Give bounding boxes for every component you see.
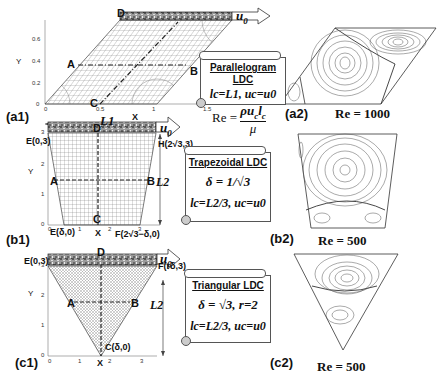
- x-tick: 0: [44, 106, 47, 112]
- reynolds-formula: Re = ρuclc μ: [212, 104, 266, 135]
- y-tick: 3: [41, 129, 44, 135]
- re-label-a2: Re = 1000: [335, 107, 390, 120]
- lid-velocity-label-a: u0: [236, 9, 248, 26]
- re-label-b2: Re = 500: [318, 234, 367, 247]
- trapezoidal-condition: lc=L2/3, uc=u0: [186, 196, 270, 211]
- point-a-label: A: [50, 176, 58, 187]
- x-tick: 0.5: [96, 106, 104, 112]
- x-tick: 1: [152, 106, 155, 112]
- panel-label-c1: (c1): [15, 356, 38, 369]
- x-tick: 3: [138, 226, 141, 232]
- x-tick: 1: [78, 358, 81, 364]
- trapezoidal-streamlines: [298, 134, 397, 228]
- parallelogram-condition: lc=L1, uc=u0: [201, 87, 285, 102]
- triangular-delta-eq: δ = √3, r=2: [186, 297, 270, 313]
- re-label-c2: Re = 500: [317, 360, 366, 373]
- y-tick: 1: [41, 322, 44, 328]
- panel-label-b1: (b1): [6, 233, 30, 246]
- y-tick: 0: [41, 352, 44, 358]
- panel-label-b2: (b2): [270, 232, 294, 245]
- triangular-condition: lc=L2/3, uc=u0: [186, 319, 270, 334]
- point-a-label: A: [67, 59, 75, 70]
- point-c-label: C(δ,0): [105, 343, 130, 352]
- triangular-streamlines: [294, 254, 398, 350]
- y-tick: 0.4: [32, 58, 40, 64]
- x-tick: 0: [48, 226, 51, 232]
- x-tick: 2: [108, 226, 111, 232]
- point-a-label: A: [67, 298, 75, 309]
- x-tick: 3: [140, 358, 143, 364]
- parallelogram-title-1: Parallelogram: [201, 62, 285, 73]
- point-e-bottom-label: E(δ,0): [50, 228, 75, 237]
- point-e-label: E(0,3): [24, 257, 49, 266]
- x-tick: 1.5: [203, 106, 211, 112]
- parallelogram-info-box: Parallelogram LDC lc=L1, uc=u0: [200, 57, 286, 105]
- triangular-title: Triangular LDC: [186, 280, 270, 291]
- x-axis-label-a: X: [132, 113, 138, 122]
- scroll-roll-bottom: [181, 336, 191, 346]
- y-axis-label-b: Y: [28, 168, 33, 176]
- y-tick: 0.2: [32, 80, 40, 86]
- point-d-label: D: [93, 123, 101, 134]
- trapezoidal-mesh: [40, 117, 180, 230]
- panel-label-c2: (c2): [270, 356, 293, 369]
- y-tick: 3: [41, 262, 44, 268]
- y-tick: 0: [36, 101, 39, 107]
- dimension-l2-label: L2: [150, 299, 163, 311]
- point-e-top-label: E(0,3): [26, 137, 51, 146]
- y-tick: 0.6: [32, 36, 40, 42]
- scroll-roll-top: [184, 269, 266, 278]
- point-b-label: B: [147, 176, 155, 187]
- scroll-roll-top: [199, 51, 281, 60]
- trapezoidal-title: Trapezoidal LDC: [186, 157, 270, 168]
- scroll-roll-bottom: [196, 98, 206, 108]
- lid-velocity-label-b: u0: [160, 121, 172, 138]
- panel-label-a1: (a1): [6, 110, 29, 123]
- point-f-label: F(rδ,3): [158, 262, 186, 271]
- x-tick: 1: [78, 226, 81, 232]
- y-axis-label-c: Y: [28, 290, 33, 298]
- point-b-label: B: [190, 66, 198, 77]
- y-axis-label-a: Y: [16, 58, 21, 66]
- trapezoidal-info-box: Trapezoidal LDC δ = 1/√3 lc=L2/3, uc=u0: [185, 152, 271, 222]
- y-tick: 0: [41, 221, 44, 227]
- scroll-roll-top: [184, 146, 266, 155]
- x-tick: 0: [48, 358, 51, 364]
- trapezoidal-delta-eq: δ = 1/√3: [186, 174, 270, 190]
- point-c-label: C: [93, 214, 101, 225]
- x-tick: 2: [108, 358, 111, 364]
- x-axis-label-b: X: [95, 229, 101, 238]
- point-d-label: D: [117, 8, 125, 19]
- y-tick: 2: [41, 292, 44, 298]
- parallelogram-title-2: LDC: [201, 74, 285, 85]
- y-tick: 2: [41, 161, 44, 167]
- point-d-label: D: [97, 247, 105, 258]
- scroll-roll-bottom: [181, 215, 191, 225]
- parallelogram-streamlines: [280, 28, 436, 104]
- panel-label-a2: (a2): [285, 107, 308, 120]
- x-axis-label-c: X: [97, 359, 103, 368]
- y-tick: 1: [41, 191, 44, 197]
- triangular-info-box: Triangular LDC δ = √3, r=2 lc=L2/3, uc=u…: [185, 275, 271, 343]
- dimension-l2-label: L2: [156, 176, 169, 188]
- dimension-l1-label: L1: [100, 114, 114, 127]
- point-b-label: B: [131, 298, 139, 309]
